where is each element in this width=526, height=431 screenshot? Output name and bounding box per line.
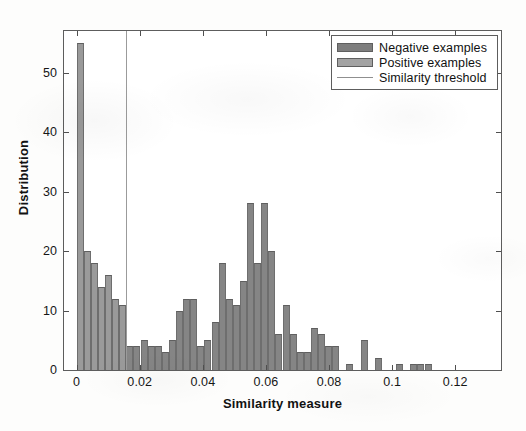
x-tick-label: 0.02 (127, 375, 152, 389)
x-axis-label: Similarity measure (63, 396, 502, 411)
histogram-bar (176, 311, 183, 370)
x-axis-tick-top (329, 31, 330, 36)
threshold-line-swatch-icon (337, 73, 373, 82)
x-axis-tick-top (266, 31, 267, 36)
histogram-figure: 00.020.040.060.080.10.12 01020304050 Sim… (0, 0, 526, 431)
legend-entry-threshold: Similarity threshold (337, 70, 492, 85)
histogram-bar (375, 358, 382, 370)
y-tick-label: 30 (43, 185, 57, 199)
legend-label-negative: Negative examples (379, 41, 487, 55)
histogram-bar (247, 203, 254, 370)
x-axis-tick (455, 365, 456, 370)
positive-swatch-icon (337, 58, 373, 67)
histogram-bar (261, 203, 268, 370)
histogram-bar (219, 263, 226, 370)
legend-entry-negative: Negative examples (337, 40, 492, 55)
y-tick-label: 10 (43, 304, 57, 318)
x-tick-label: 0.06 (254, 375, 279, 389)
histogram-bar (417, 364, 424, 370)
y-axis-tick (64, 311, 69, 312)
histogram-bar (233, 305, 240, 370)
histogram-bar (361, 340, 368, 370)
x-axis-tick (140, 365, 141, 370)
histogram-bar (275, 334, 282, 370)
x-axis-tick (266, 365, 267, 370)
x-tick-label: 0.12 (443, 375, 468, 389)
y-tick-label: 50 (43, 66, 57, 80)
y-axis-tick-right (496, 311, 501, 312)
negative-swatch-icon (337, 43, 373, 52)
x-axis-tick (203, 365, 204, 370)
histogram-bar (91, 263, 98, 370)
histogram-bar (204, 340, 211, 370)
x-tick-label: 0.08 (317, 375, 342, 389)
histogram-bar (77, 43, 84, 370)
y-tick-label: 40 (43, 125, 57, 139)
y-axis-tick-right (496, 132, 501, 133)
histogram-bar (162, 352, 169, 370)
x-tick-label: 0.04 (190, 375, 215, 389)
legend-label-positive: Positive examples (379, 56, 481, 70)
histogram-bar (332, 346, 339, 370)
histogram-bar (105, 275, 112, 370)
histogram-bar (148, 346, 155, 370)
histogram-bar (304, 352, 311, 370)
y-axis-tick (64, 132, 69, 133)
histogram-bar (425, 364, 432, 370)
legend-entry-positive: Positive examples (337, 55, 492, 70)
similarity-threshold-line (126, 31, 127, 370)
histogram-bar (396, 364, 403, 370)
y-axis-tick (64, 73, 69, 74)
histogram-bar (346, 364, 353, 370)
x-axis-tick (77, 365, 78, 370)
x-tick-label: 0.1 (383, 375, 401, 389)
y-axis-tick-right (496, 192, 501, 193)
x-tick-label: 0 (73, 375, 80, 389)
y-axis-tick-right (496, 251, 501, 252)
histogram-bar (318, 334, 325, 370)
legend-label-threshold: Similarity threshold (379, 71, 487, 85)
y-axis-tick-right (496, 370, 501, 371)
x-axis-tick (392, 365, 393, 370)
x-axis-tick-top (77, 31, 78, 36)
x-axis-tick (329, 365, 330, 370)
histogram-bar (290, 334, 297, 370)
histogram-bar (190, 299, 197, 370)
y-axis-tick (64, 370, 69, 371)
y-axis-tick (64, 251, 69, 252)
chart-legend: Negative examples Positive examples Simi… (331, 35, 498, 90)
x-axis-tick-top (140, 31, 141, 36)
y-tick-label: 20 (43, 244, 57, 258)
x-axis-tick-top (203, 31, 204, 36)
y-axis-label: Distribution (16, 98, 31, 258)
y-axis-tick (64, 192, 69, 193)
y-tick-label: 0 (50, 363, 57, 377)
